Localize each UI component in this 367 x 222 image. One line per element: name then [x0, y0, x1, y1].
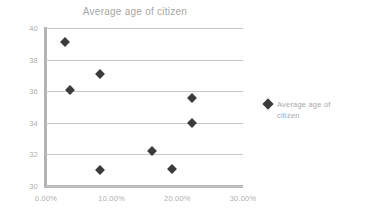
gridline — [46, 154, 243, 155]
data-point-marker — [187, 93, 197, 103]
legend-diamond-icon — [262, 98, 273, 109]
gridline — [46, 91, 243, 92]
legend-entry-label: Average age of citizen — [277, 99, 351, 121]
data-point-marker — [65, 85, 75, 95]
x-axis-tick-label: 0.00% — [35, 194, 57, 203]
x-axis-tick-label: 30.00% — [230, 194, 257, 203]
gridline — [46, 28, 243, 29]
data-point-marker — [187, 118, 197, 128]
y-axis-tick-label: 40 — [12, 24, 38, 33]
gridline — [46, 186, 243, 187]
gridline — [46, 123, 243, 124]
data-point-marker — [167, 164, 177, 174]
x-axis-tick-labels: 0.00%10.00%20.00%30.00% — [46, 194, 243, 208]
plot-area — [46, 28, 243, 186]
y-axis-tick-label: 38 — [12, 55, 38, 64]
x-axis-tick-label: 20.00% — [164, 194, 191, 203]
y-axis-tick-label: 34 — [12, 118, 38, 127]
scatter-chart: Average age of citizen 403836343230 0.00… — [0, 0, 367, 222]
x-axis-tick-label: 10.00% — [98, 194, 125, 203]
y-axis-tick-label: 36 — [12, 87, 38, 96]
y-axis-tick-label: 32 — [12, 150, 38, 159]
chart-legend: Average age of citizen — [264, 99, 364, 121]
y-axis-tick-labels: 403836343230 — [8, 28, 38, 186]
chart-title: Average age of citizen — [0, 6, 270, 17]
data-point-marker — [60, 37, 70, 47]
y-axis-tick-label: 30 — [12, 182, 38, 191]
data-point-marker — [95, 165, 105, 175]
gridline — [46, 60, 243, 61]
data-point-marker — [95, 69, 105, 79]
